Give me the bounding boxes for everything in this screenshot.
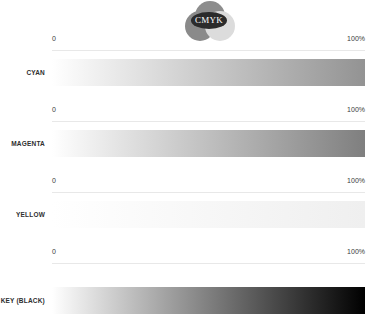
- scale-min-label: 0: [52, 246, 56, 258]
- scale-key-black: 0 100%: [52, 246, 365, 258]
- scale-cyan: 0 100%: [52, 33, 365, 45]
- scale-magenta: 0 100%: [52, 104, 365, 116]
- scale-yellow: 0 100%: [52, 175, 365, 187]
- logo-badge: CMYK: [191, 12, 227, 29]
- axis-line-yellow: [52, 192, 365, 193]
- gradient-bar-key-black[interactable]: [52, 287, 365, 314]
- channel-label-key-black: KEY (BLACK): [0, 298, 45, 305]
- channel-label-cyan: CYAN: [0, 70, 45, 77]
- axis-line-magenta: [52, 121, 365, 122]
- scale-min-label: 0: [52, 33, 56, 45]
- scale-max-label: 100%: [347, 104, 365, 116]
- logo-text: CMYK: [195, 16, 223, 25]
- scale-min-label: 0: [52, 175, 56, 187]
- axis-line-cyan: [52, 50, 365, 51]
- channel-label-magenta: MAGENTA: [0, 141, 45, 148]
- scale-max-label: 100%: [347, 175, 365, 187]
- gradient-bar-yellow[interactable]: [52, 201, 365, 228]
- channel-label-yellow: YELLOW: [0, 212, 45, 219]
- scale-max-label: 100%: [347, 33, 365, 45]
- gradient-bar-cyan[interactable]: [52, 59, 365, 86]
- gradient-bar-magenta[interactable]: [52, 130, 365, 157]
- axis-line-key-black: [52, 263, 365, 264]
- scale-min-label: 0: [52, 104, 56, 116]
- scale-max-label: 100%: [347, 246, 365, 258]
